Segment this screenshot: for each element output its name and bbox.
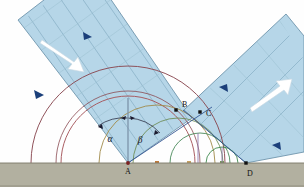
figure-canvas: A B C D α β <box>0 0 304 187</box>
point-label-A: A <box>125 167 131 176</box>
point-label-B: B <box>182 100 187 109</box>
physics-diagram: A B C D α β <box>0 0 304 187</box>
point-marker-B <box>174 108 177 111</box>
incident-beam-body <box>18 0 192 163</box>
point-label-D: D <box>247 169 253 178</box>
point-marker-D <box>244 161 247 164</box>
point-marker-C <box>198 110 201 113</box>
ground-fill <box>0 163 304 187</box>
angle-label-beta: β <box>137 135 143 145</box>
point-label-C: C <box>206 109 211 118</box>
point-marker-A <box>126 161 130 165</box>
reflecting-surface <box>0 163 304 187</box>
